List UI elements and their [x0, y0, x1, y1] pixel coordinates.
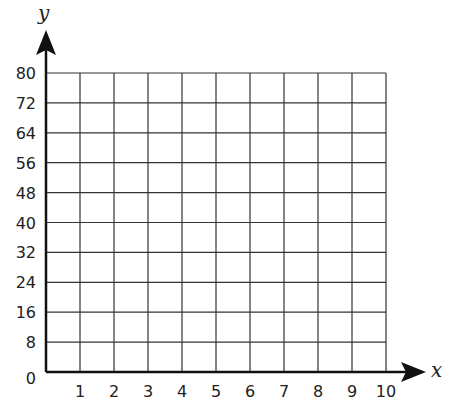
grid-lines: [46, 73, 386, 372]
y-tick-label: 48: [16, 184, 36, 203]
x-tick-labels: 12345678910: [75, 382, 396, 401]
x-tick-label: 2: [109, 382, 119, 401]
y-tick-label: 80: [16, 64, 36, 83]
x-tick-label: 4: [177, 382, 187, 401]
y-tick-label: 72: [16, 94, 36, 113]
y-tick-label: 8: [26, 333, 36, 352]
x-tick-label: 10: [376, 382, 396, 401]
x-tick-label: 8: [313, 382, 323, 401]
x-tick-label: 5: [211, 382, 221, 401]
y-tick-labels: 08162432404856647280: [16, 64, 36, 388]
x-tick-label: 7: [279, 382, 289, 401]
y-tick-label: 24: [16, 273, 36, 292]
x-tick-label: 1: [75, 382, 85, 401]
y-tick-label: 32: [16, 243, 36, 262]
x-axis-label: x: [431, 358, 442, 382]
x-tick-label: 3: [143, 382, 153, 401]
x-tick-label: 9: [347, 382, 357, 401]
y-tick-label: 64: [16, 124, 36, 143]
coordinate-grid-chart: 08162432404856647280 12345678910 y x: [0, 0, 454, 403]
y-tick-label: 16: [16, 303, 36, 322]
y-tick-label: 0: [26, 369, 36, 388]
y-tick-label: 56: [16, 154, 36, 173]
axes: [36, 30, 426, 382]
y-tick-label: 40: [16, 214, 36, 233]
x-tick-label: 6: [245, 382, 255, 401]
y-axis-label: y: [37, 1, 50, 25]
